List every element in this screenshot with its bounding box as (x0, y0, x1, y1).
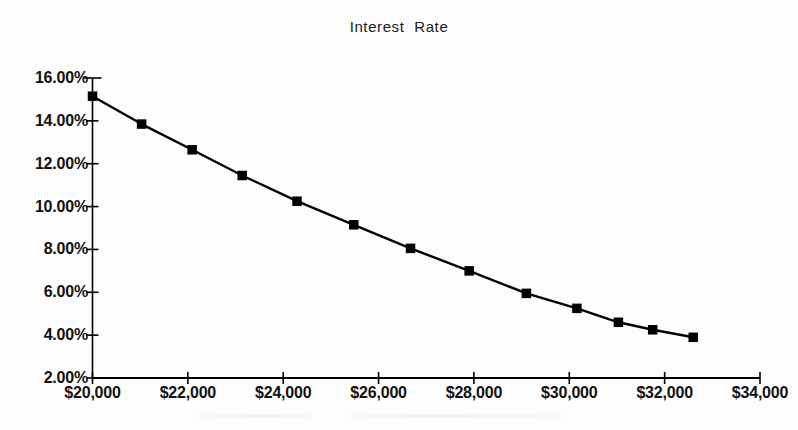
chart-canvas: Interest Rate 16.00%14.00%12.00%10.00%8.… (0, 0, 798, 430)
plot-area (0, 0, 798, 430)
y-axis (84, 78, 102, 378)
data-series-interest-rate (88, 91, 698, 342)
x-axis (93, 372, 761, 384)
